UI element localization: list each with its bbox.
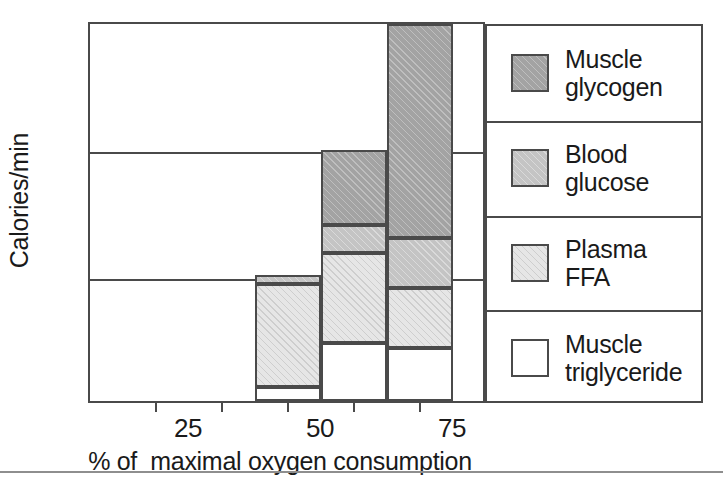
bar-segment-75-blood-glucose bbox=[387, 238, 453, 288]
legend-label-line1: Blood bbox=[565, 140, 649, 168]
legend-label-line1: Muscle bbox=[565, 330, 682, 358]
legend-label-plasma-ffa: Plasma FFA bbox=[565, 235, 647, 291]
bar-segment-50-muscle-glycogen bbox=[321, 150, 387, 225]
legend-swatch-blood-glucose bbox=[511, 149, 549, 187]
x-tick-label-75: 75 bbox=[407, 413, 497, 444]
legend-item-blood-glucose: Blood glucose bbox=[487, 121, 701, 216]
x-tick-label-25: 25 bbox=[143, 413, 233, 444]
bar-segment-75-muscle-triglyceride bbox=[387, 348, 453, 401]
bar-segment-25-plasma-ffa bbox=[255, 284, 321, 387]
legend-label-line1: Muscle bbox=[565, 45, 663, 73]
legend-label-line2: glycogen bbox=[565, 73, 663, 101]
legend: Muscle glycogen Blood glucose Plasma FFA… bbox=[485, 24, 703, 403]
legend-label-line1: Plasma bbox=[565, 235, 647, 263]
figure-bottom-rule bbox=[0, 471, 723, 473]
legend-label-blood-glucose: Blood glucose bbox=[565, 140, 649, 196]
x-tick-mark bbox=[419, 403, 421, 412]
legend-swatch-muscle-triglyceride bbox=[511, 339, 549, 377]
plot-area bbox=[88, 22, 485, 403]
legend-label-muscle-glycogen: Muscle glycogen bbox=[565, 45, 663, 101]
x-tick-mark bbox=[221, 403, 223, 412]
bar-segment-50-muscle-triglyceride bbox=[321, 343, 387, 401]
bar-segment-75-plasma-ffa bbox=[387, 288, 453, 348]
stacked-bar-chart-figure: Calories/min 15 10 5 0 25 50 75 % of max… bbox=[0, 0, 723, 485]
x-tick-mark bbox=[287, 403, 289, 412]
legend-label-line2: triglyceride bbox=[565, 358, 682, 386]
y-axis-title: Calories/min bbox=[5, 86, 34, 316]
bar-segment-25-blood-glucose bbox=[255, 275, 321, 284]
legend-item-muscle-triglyceride: Muscle triglyceride bbox=[487, 310, 701, 405]
bar-segment-50-blood-glucose bbox=[321, 225, 387, 253]
bar-25 bbox=[255, 275, 321, 401]
x-tick-label-50: 50 bbox=[275, 413, 365, 444]
bar-segment-50-plasma-ffa bbox=[321, 253, 387, 343]
bar-segment-25-muscle-triglyceride bbox=[255, 387, 321, 401]
bar-segment-75-muscle-glycogen bbox=[387, 24, 453, 238]
legend-item-plasma-ffa: Plasma FFA bbox=[487, 216, 701, 311]
legend-label-line2: FFA bbox=[565, 263, 647, 291]
x-tick-mark bbox=[155, 403, 157, 412]
legend-label-muscle-triglyceride: Muscle triglyceride bbox=[565, 330, 682, 386]
legend-swatch-plasma-ffa bbox=[511, 244, 549, 282]
bar-50 bbox=[321, 150, 387, 401]
bar-75 bbox=[387, 24, 453, 401]
legend-item-muscle-glycogen: Muscle glycogen bbox=[487, 26, 701, 121]
legend-swatch-muscle-glycogen bbox=[511, 54, 549, 92]
legend-label-line2: glucose bbox=[565, 168, 649, 196]
x-tick-mark bbox=[353, 403, 355, 412]
